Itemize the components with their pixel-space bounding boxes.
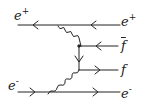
feynman-diagram: e+ e+ f f e- e-	[0, 0, 144, 108]
label-f-out: f	[121, 63, 126, 76]
photon-upper	[58, 26, 81, 46]
label-e-plus-out: e+	[121, 14, 136, 28]
label-fbar-out: f	[121, 39, 126, 52]
label-e-minus-out: e-	[121, 86, 132, 100]
label-e-minus-in: e-	[8, 78, 19, 92]
label-e-plus-in: e+	[14, 8, 29, 22]
photon-lower	[48, 70, 79, 94]
